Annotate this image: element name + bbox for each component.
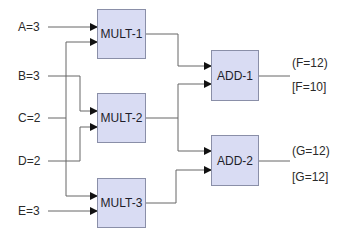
mult-1-block: MULT-1 bbox=[97, 9, 146, 59]
output-f-expected: (F=12) bbox=[292, 56, 328, 70]
add-2-label: ADD-2 bbox=[217, 154, 253, 168]
wire-b bbox=[48, 76, 97, 111]
mult-3-label: MULT-3 bbox=[101, 196, 143, 210]
wire-d bbox=[48, 127, 97, 161]
input-e-label: E=3 bbox=[18, 204, 40, 218]
output-g-actual: [G=12] bbox=[292, 170, 328, 184]
wiring bbox=[0, 0, 346, 244]
output-f-actual: [F=10] bbox=[292, 80, 326, 94]
wire-mult2-add1 bbox=[178, 84, 211, 118]
wire-mult2-add2 bbox=[178, 118, 211, 151]
input-c-label: C=2 bbox=[18, 111, 40, 125]
mult-3-block: MULT-3 bbox=[97, 178, 146, 228]
add-1-block: ADD-1 bbox=[211, 50, 259, 101]
wire-mult3-add2 bbox=[146, 170, 211, 203]
input-a-label: A=3 bbox=[18, 20, 40, 34]
mult-2-block: MULT-2 bbox=[97, 93, 146, 143]
add-1-label: ADD-1 bbox=[217, 69, 253, 83]
input-d-label: D=2 bbox=[18, 154, 40, 168]
output-g-expected: (G=12) bbox=[292, 144, 330, 158]
add-2-block: ADD-2 bbox=[211, 135, 259, 186]
mult-2-label: MULT-2 bbox=[101, 111, 143, 125]
input-b-label: B=3 bbox=[18, 69, 40, 83]
wire-mult1-add1 bbox=[146, 34, 211, 66]
mult-1-label: MULT-1 bbox=[101, 27, 143, 41]
